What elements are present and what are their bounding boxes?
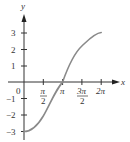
y-tick-label-minus-1: −1 <box>6 94 16 104</box>
x-tick-label-pi-over-2-den: 2 <box>41 96 46 106</box>
y-tick-label-minus-3: −3 <box>6 127 16 137</box>
chart: y x 0 3 2 1 −1 −2 −3 π 2 π 3π 2 2π <box>0 0 130 142</box>
x-tick-label-2pi: 2π <box>96 86 106 96</box>
x-tick-label-3pi-over-2-num: 3π <box>76 86 87 96</box>
x-axis-arrow-icon <box>112 80 120 85</box>
y-axis-label: y <box>20 1 25 11</box>
y-tick-label-minus-2: −2 <box>6 110 16 120</box>
origin-label: 0 <box>16 86 21 96</box>
x-axis-label: x <box>120 77 125 87</box>
x-tick-label-3pi-over-2-den: 2 <box>80 96 85 106</box>
x-tick-label-pi-over-2-num: π <box>41 86 46 96</box>
x-tick-label-pi: π <box>60 86 65 96</box>
y-tick-label-3: 3 <box>11 28 16 38</box>
y-tick-label-2: 2 <box>11 45 16 55</box>
y-axis-arrow-icon <box>22 14 27 22</box>
y-tick-label-1: 1 <box>11 61 16 71</box>
